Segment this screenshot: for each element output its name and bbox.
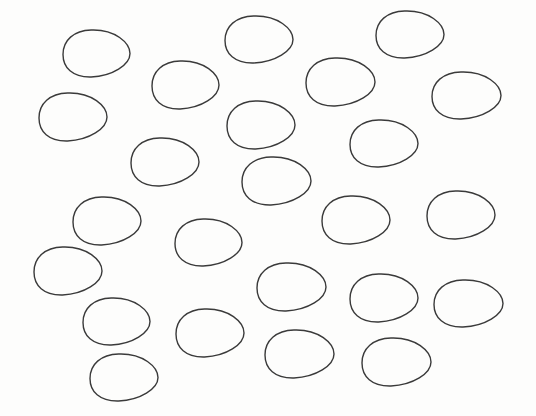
egg-outline-17 xyxy=(257,263,326,311)
egg-outline-20 xyxy=(83,298,150,345)
egg-outline-16 xyxy=(34,247,102,295)
egg-outline-19 xyxy=(434,280,503,327)
egg-outline-8 xyxy=(227,101,295,149)
egg-outline-18 xyxy=(350,274,418,322)
egg-outline-5 xyxy=(306,58,375,106)
egg-outline-7 xyxy=(39,93,107,141)
egg-outline-23 xyxy=(362,338,431,386)
egg-outline-9 xyxy=(350,120,418,167)
egg-outline-15 xyxy=(175,219,242,266)
egg-outline-4 xyxy=(152,61,219,109)
egg-outline-2 xyxy=(225,16,293,63)
egg-drawing-layer xyxy=(0,0,536,416)
egg-outline-13 xyxy=(322,196,390,244)
egg-outline-12 xyxy=(73,197,141,245)
egg-outline-21 xyxy=(176,309,244,357)
egg-outline-11 xyxy=(242,157,311,205)
worksheet-canvas xyxy=(0,0,536,416)
egg-outline-1 xyxy=(63,30,130,77)
egg-outline-24 xyxy=(90,354,158,401)
egg-outline-6 xyxy=(432,72,501,119)
egg-outline-3 xyxy=(376,11,444,58)
egg-outline-10 xyxy=(131,138,199,186)
egg-outline-22 xyxy=(265,330,334,378)
egg-outline-14 xyxy=(427,191,495,239)
